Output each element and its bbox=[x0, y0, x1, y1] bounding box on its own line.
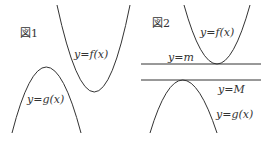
figure-1: 図1 y=f(x) y=g(x) bbox=[12, 5, 130, 133]
figure-2-label-g: y=g(x) bbox=[215, 108, 253, 121]
figure-2-label-f: y=f(x) bbox=[199, 26, 234, 39]
figure-2-title: 図2 bbox=[152, 17, 170, 30]
figure-2-curve-g bbox=[150, 80, 217, 133]
figure-2: 図2 y=f(x) y=m y=M y=g(x) bbox=[141, 5, 261, 133]
figure-2-label-m: y=m bbox=[167, 51, 194, 64]
figure-1-label-f: y=f(x) bbox=[73, 48, 108, 61]
figure-1-label-g: y=g(x) bbox=[26, 93, 64, 106]
figure-1-title: 図1 bbox=[20, 27, 38, 40]
diagram-canvas: 図1 y=f(x) y=g(x) 図2 y=f(x) y=m y=M y=g(x… bbox=[0, 0, 265, 143]
figure-2-label-M: y=M bbox=[217, 83, 245, 96]
